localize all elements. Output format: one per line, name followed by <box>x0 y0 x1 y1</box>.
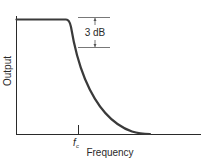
cutoff-label-sub: c <box>76 143 79 149</box>
x-axis-label: Frequency <box>86 147 133 158</box>
arrow-down-icon <box>94 44 97 47</box>
filter-response-diagram: 3 dB Output Frequency fc <box>0 0 208 161</box>
arrow-up-icon <box>94 18 97 21</box>
cutoff-label: fc <box>73 137 79 149</box>
3db-label: 3 dB <box>85 27 106 38</box>
response-curve <box>17 20 151 135</box>
y-axis-label: Output <box>2 56 13 86</box>
